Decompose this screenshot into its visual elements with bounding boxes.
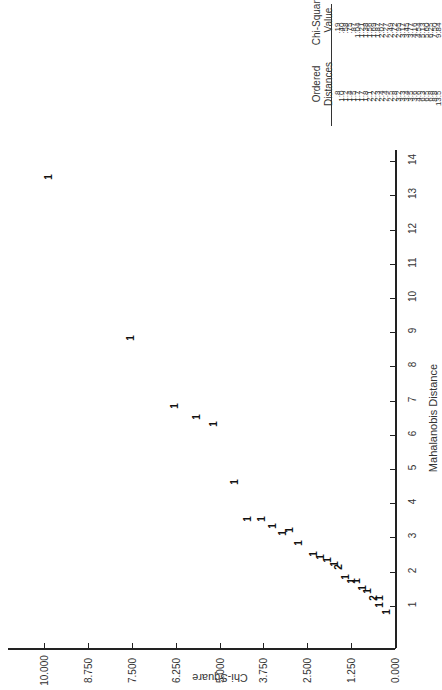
x-axis-tick bbox=[390, 606, 396, 607]
data-point-marker: 1 bbox=[209, 421, 219, 427]
x-axis-tick bbox=[390, 230, 396, 231]
data-point-marker: 1 bbox=[382, 609, 392, 615]
y-axis-tick bbox=[220, 643, 221, 649]
y-axis-tick bbox=[395, 643, 396, 649]
x-axis-tick bbox=[390, 503, 396, 504]
x-axis-tick bbox=[390, 366, 396, 367]
data-point-marker: 2 bbox=[368, 595, 378, 601]
y-axis-tick bbox=[263, 643, 264, 649]
y-axis-tick-label: 7.500 bbox=[126, 651, 137, 690]
x-axis-tick bbox=[390, 161, 396, 162]
data-point-marker: 1 bbox=[375, 602, 385, 608]
x-axis-tick-label: 8 bbox=[407, 358, 418, 372]
y-axis-tick bbox=[44, 643, 45, 649]
data-point-marker: 1 bbox=[256, 517, 266, 523]
qq-plot-chart: 1234567891011121314Mahalanobis Distance0… bbox=[0, 0, 442, 690]
data-point-marker: 1 bbox=[192, 414, 202, 420]
y-axis-tick-label: 10.000 bbox=[39, 651, 50, 690]
data-point-marker: 1 bbox=[293, 540, 303, 546]
data-point-marker: 1 bbox=[309, 551, 319, 557]
data-point-marker: 1 bbox=[340, 575, 350, 581]
x-axis-tick bbox=[390, 298, 396, 299]
x-axis-tick-label: 7 bbox=[407, 392, 418, 406]
x-axis-tick-label: 3 bbox=[407, 529, 418, 543]
x-axis-tick bbox=[390, 401, 396, 402]
x-axis-tick bbox=[390, 469, 396, 470]
y-axis-line bbox=[8, 648, 395, 650]
data-point-marker: 1 bbox=[169, 404, 179, 410]
x-axis-tick bbox=[390, 195, 396, 196]
x-axis-tick-label: 11 bbox=[407, 255, 418, 269]
x-axis-tick-label: 5 bbox=[407, 461, 418, 475]
y-axis-tick-label: 3.750 bbox=[258, 651, 269, 690]
y-axis-tick bbox=[176, 643, 177, 649]
x-axis-tick-label: 6 bbox=[407, 426, 418, 440]
x-axis-tick-label: 2 bbox=[407, 563, 418, 577]
x-axis-title: Mahalanobis Distance bbox=[427, 353, 439, 483]
x-axis-tick bbox=[390, 435, 396, 436]
x-axis-tick bbox=[390, 572, 396, 573]
x-axis-tick-label: 4 bbox=[407, 495, 418, 509]
y-axis-tick-label: 0.000 bbox=[390, 651, 401, 690]
x-axis-tick-label: 13 bbox=[407, 187, 418, 201]
data-point-marker: 1 bbox=[43, 175, 53, 181]
y-axis-title: Chi-Square bbox=[180, 672, 260, 684]
data-point-marker: 1 bbox=[268, 523, 278, 529]
y-axis-tick-label: 8.750 bbox=[82, 651, 93, 690]
y-axis-tick-label: 5.000 bbox=[214, 651, 225, 690]
y-axis-tick bbox=[88, 643, 89, 649]
x-axis-tick bbox=[390, 332, 396, 333]
table-header-line: Chi-Square bbox=[311, 0, 323, 65]
y-axis-tick bbox=[351, 643, 352, 649]
table-cell-distance: 13.5 bbox=[433, 91, 442, 119]
x-axis-tick-label: 1 bbox=[407, 597, 418, 611]
x-axis-line bbox=[395, 150, 397, 648]
y-axis-tick-label: 1.250 bbox=[346, 651, 357, 690]
x-axis-tick-label: 12 bbox=[407, 221, 418, 235]
y-axis-tick-label: 6.250 bbox=[170, 651, 181, 690]
y-axis-tick-label: 2.500 bbox=[302, 651, 313, 690]
x-axis-tick bbox=[390, 264, 396, 265]
y-axis-tick bbox=[132, 643, 133, 649]
x-axis-tick bbox=[390, 537, 396, 538]
data-point-marker: 1 bbox=[278, 530, 288, 536]
y-axis-tick bbox=[307, 643, 308, 649]
data-point-marker: 1 bbox=[243, 517, 253, 523]
data-point-marker: 1 bbox=[126, 335, 136, 341]
data-point-marker: 1 bbox=[358, 585, 368, 591]
x-axis-tick-label: 10 bbox=[407, 290, 418, 304]
x-axis-tick-label: 14 bbox=[407, 153, 418, 167]
table-cell-chi-square: 9.84 bbox=[433, 23, 442, 51]
x-axis-tick-label: 9 bbox=[407, 324, 418, 338]
data-point-marker: 1 bbox=[229, 479, 239, 485]
